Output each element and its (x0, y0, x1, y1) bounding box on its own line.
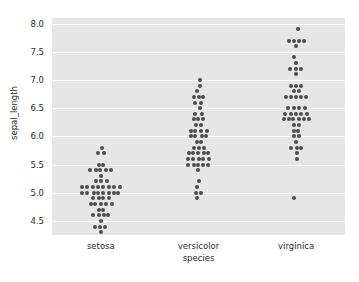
y-tick-label: 6.5 (0, 103, 44, 113)
y-tick-label: 4.5 (0, 216, 44, 226)
y-tick-label: 5.0 (0, 188, 44, 198)
x-tick-label-versicolor: versicolor (178, 241, 219, 251)
y-tick-label: 6.0 (0, 131, 44, 141)
x-tick-label-setosa: setosa (87, 241, 115, 251)
y-tick-label: 7.5 (0, 47, 44, 57)
y-tick-label: 5.5 (0, 160, 44, 170)
chart-figure: 4.55.05.56.06.57.07.58.0 setosaversicolo… (0, 0, 359, 282)
y-axis-ticks: 4.55.05.56.06.57.07.58.0 (0, 18, 359, 235)
x-tick-label-virginica: virginica (278, 241, 314, 251)
y-tick-label: 7.0 (0, 75, 44, 85)
x-axis-label: species (52, 253, 345, 263)
y-axis-label: sepal_length (9, 63, 19, 163)
y-tick-label: 8.0 (0, 19, 44, 29)
